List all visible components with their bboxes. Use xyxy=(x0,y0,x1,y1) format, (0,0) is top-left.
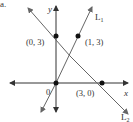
label-origin: 0 xyxy=(46,87,50,97)
point-origin xyxy=(54,81,59,86)
label-l1: L1 xyxy=(95,12,104,23)
point-0-3 xyxy=(54,34,59,39)
y-axis-label: y xyxy=(47,4,52,14)
label-point-3-0: (3, 0) xyxy=(76,88,95,98)
coordinate-diagram: a. y x (0, 3) (1, 3) 0 (3, 0) L1 L2 xyxy=(0,0,133,122)
x-axis-label: x xyxy=(123,88,128,98)
label-point-0-3: (0, 3) xyxy=(26,37,45,47)
label-point-1-3: (1, 3) xyxy=(85,37,104,47)
label-l2: L2 xyxy=(121,112,130,122)
line-l2-lower xyxy=(70,56,128,114)
point-3-0 xyxy=(100,81,105,86)
point-1-3 xyxy=(76,34,81,39)
line-l2-upper xyxy=(28,8,70,56)
part-label: a. xyxy=(0,0,6,9)
